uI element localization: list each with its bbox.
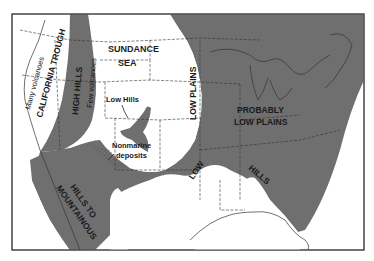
label-low-plains: LOW PLAINS xyxy=(188,66,198,120)
label-low-hills: Low Hills xyxy=(106,95,139,104)
paleogeographic-map: Many volcanoes CALIFORNIA TROUGH HIGH HI… xyxy=(0,0,374,261)
label-deposits: deposits xyxy=(116,151,147,160)
label-nonmarine: Nonmarine xyxy=(112,141,151,150)
label-probably: PROBABLY xyxy=(237,105,284,115)
label-sundance: SUNDANCE xyxy=(108,44,159,54)
label-sea: SEA xyxy=(118,58,137,68)
label-probably-low-plains: LOW PLAINS xyxy=(234,117,288,127)
